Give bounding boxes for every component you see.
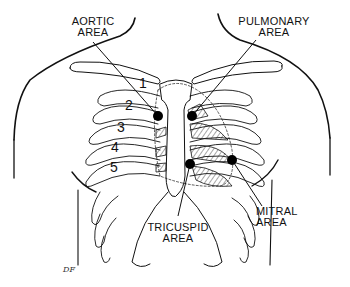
aortic-point — [153, 111, 163, 121]
tricuspid-area-label: TRICUSPID AREA — [138, 222, 218, 244]
rib-number-4: 4 — [111, 140, 119, 154]
tricuspid-point — [185, 159, 195, 169]
rib-number-5: 5 — [110, 160, 118, 174]
pulmonary-pointer — [192, 40, 256, 116]
mitral-area-label: MITRAL AREA — [256, 206, 316, 228]
auscultation-diagram: AORTIC AREA PULMONARY AREA TRICUSPID ARE… — [0, 0, 350, 287]
pulmonary-label-line2: AREA — [234, 27, 314, 38]
tricuspid-label-line2: AREA — [138, 233, 218, 244]
pulmonary-point — [187, 111, 197, 121]
aortic-area-label: AORTIC AREA — [60, 16, 126, 38]
aortic-label-line2: AREA — [60, 27, 126, 38]
artist-signature: DF — [63, 265, 75, 274]
tricuspid-pointer — [178, 164, 190, 216]
rib-number-2: 2 — [125, 98, 133, 112]
mitral-label-line2: AREA — [256, 217, 316, 228]
rib-number-3: 3 — [117, 120, 125, 134]
rib-number-1: 1 — [139, 76, 147, 90]
pulmonary-area-label: PULMONARY AREA — [234, 16, 314, 38]
mitral-point — [227, 155, 237, 165]
